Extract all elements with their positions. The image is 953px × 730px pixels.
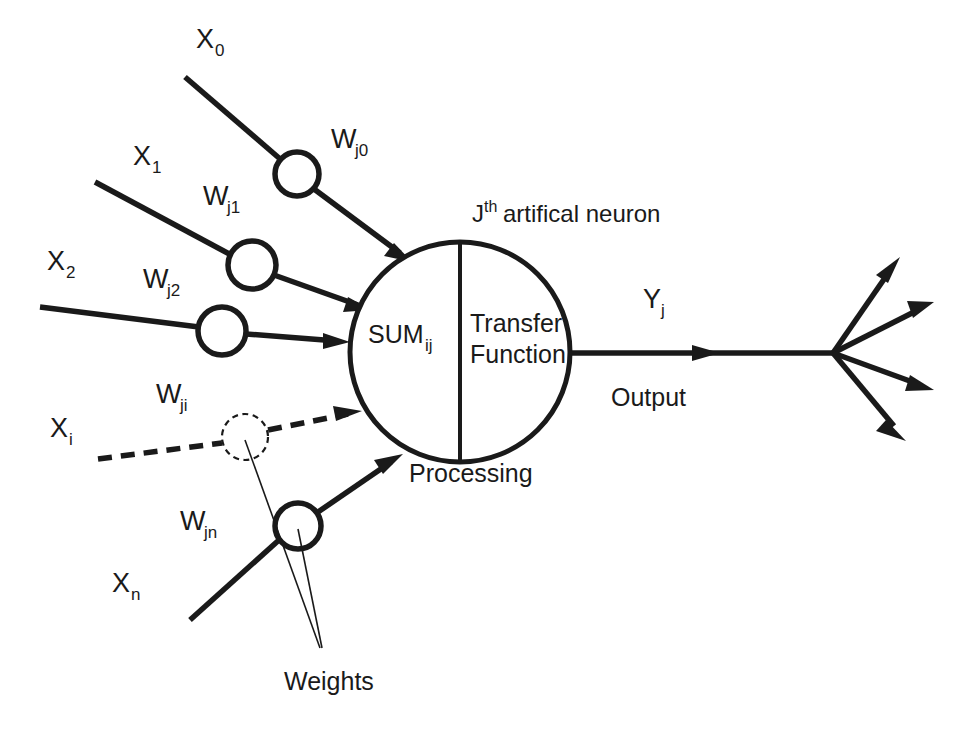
weight-label-wj0: W: [331, 124, 357, 154]
sum-label-sub: ij: [425, 336, 433, 355]
output-symbol-y-sub: j: [660, 301, 665, 320]
weight-line-wj0: [314, 189, 400, 253]
output-symbol-y: Y: [643, 284, 661, 314]
weight-line-wjn: [318, 462, 391, 512]
input-label-x2-sub: 2: [66, 263, 75, 282]
weight-node-wj2[interactable]: [198, 307, 246, 355]
transfer-function-line1: Transfer: [470, 309, 562, 337]
output-labels: Y j Output: [611, 284, 686, 411]
arrowhead-x2: [323, 333, 350, 349]
neuron-diagram-canvas: X 0 X 1 X 2 X i X n W j0 W j1 W j2 W ji …: [0, 0, 953, 730]
input-label-x0: X: [196, 24, 214, 54]
weights-callout-label: Weights: [284, 667, 374, 695]
input-label-xi: X: [50, 413, 68, 443]
weight-label-wji-sub: ji: [179, 396, 188, 415]
neuron-title-main: J: [472, 200, 484, 227]
output-axon: [570, 345, 833, 361]
input-label-x1: X: [133, 141, 151, 171]
weight-label-wj2: W: [143, 264, 169, 294]
input-label-x1-sub: 1: [152, 158, 161, 177]
input-label-x2: X: [47, 246, 65, 276]
weight-label-wj1-sub: j1: [226, 198, 240, 217]
weight-label-wj2-sub: j2: [166, 281, 180, 300]
input-branch-xn: [190, 454, 403, 620]
input-branch-xi: [98, 406, 362, 460]
input-branch-x2: [40, 307, 350, 355]
weight-node-wj0[interactable]: [275, 152, 319, 196]
weight-label-wji: W: [156, 379, 182, 409]
input-branch-x0: [185, 77, 412, 262]
weight-label-wj1: W: [203, 181, 229, 211]
input-label-x0-sub: 0: [215, 41, 224, 60]
arrowhead-output-midway: [692, 345, 720, 361]
neuron-title-group: J th artifical neuron: [472, 198, 660, 227]
weight-node-wji-dashed[interactable]: [222, 414, 268, 460]
neuron-title-rest: artifical neuron: [503, 200, 660, 227]
input-line-xi-dashed: [98, 443, 222, 459]
processing-label: Processing: [409, 459, 533, 487]
weight-line-wj1: [274, 275, 358, 305]
weight-node-wj1[interactable]: [228, 241, 276, 289]
input-line-x0: [185, 77, 279, 158]
neuron-title-superscript: th: [484, 198, 497, 215]
arrowhead-xi: [333, 406, 362, 421]
output-branch-fan: [833, 257, 934, 441]
sum-label: SUM: [368, 320, 424, 348]
weight-label-wjn: W: [180, 506, 206, 536]
transfer-function-line2: Function: [470, 340, 566, 368]
arrowhead-output-branch-3: [905, 375, 934, 391]
output-caption: Output: [611, 383, 686, 411]
input-line-xn: [190, 540, 279, 620]
weight-label-wj0-sub: j0: [354, 141, 368, 160]
weight-label-wjn-sub: jn: [203, 523, 217, 542]
arrowhead-output-branch-1: [876, 257, 900, 283]
input-line-x2: [40, 307, 199, 327]
artificial-neuron-diagram: X 0 X 1 X 2 X i X n W j0 W j1 W j2 W ji …: [0, 0, 953, 730]
input-label-xi-sub: i: [69, 430, 73, 449]
input-label-xn: X: [112, 568, 130, 598]
input-label-xn-sub: n: [131, 585, 140, 604]
